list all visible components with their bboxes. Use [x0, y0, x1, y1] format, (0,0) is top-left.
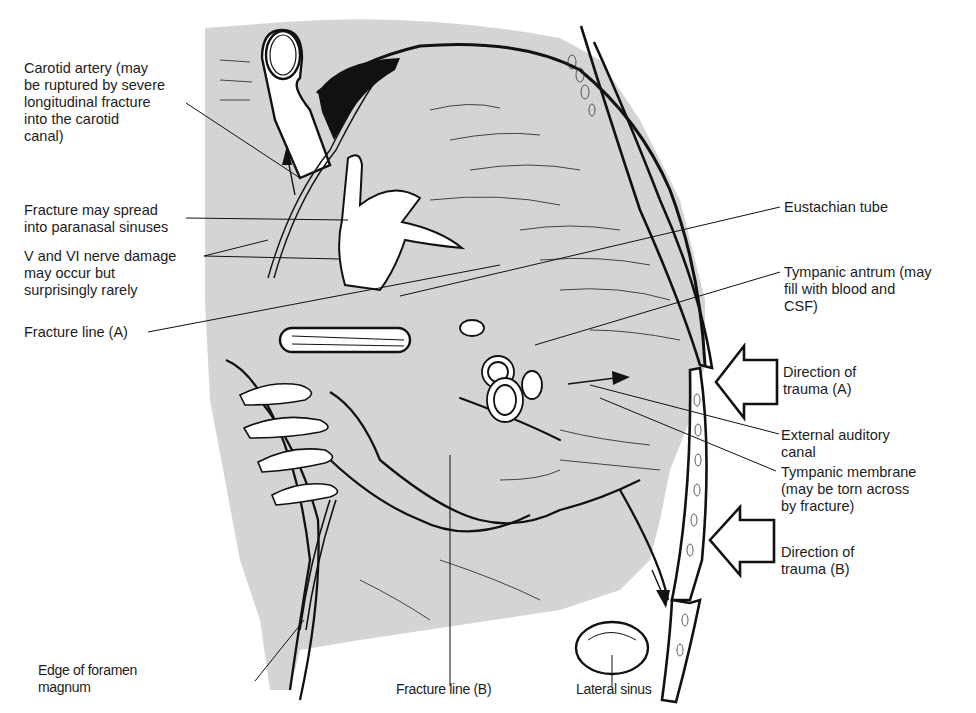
label-nerve-damage: V and VI nerve damage may occur but surp… [24, 248, 176, 299]
label-fracture-line-a: Fracture line (A) [24, 324, 128, 341]
label-direction-trauma-a: Direction of trauma (A) [783, 364, 856, 398]
label-paranasal-sinuses: Fracture may spread into paranasal sinus… [24, 202, 168, 236]
trauma-arrow-a-icon [716, 346, 777, 418]
label-tympanic-membrane: Tympanic membrane (may be torn across by… [781, 464, 916, 515]
carotid-horizontal [280, 328, 410, 352]
label-external-auditory-canal: External auditory canal [781, 427, 890, 461]
label-lateral-sinus: Lateral sinus [576, 681, 651, 698]
trauma-arrow-b-icon [710, 507, 774, 575]
label-fracture-line-b: Fracture line (B) [396, 681, 491, 698]
label-foramen-magnum: Edge of foramen magnum [38, 662, 137, 696]
label-carotid-artery: Carotid artery (may be ruptured by sever… [24, 60, 165, 145]
label-tympanic-antrum: Tympanic antrum (may fill with blood and… [784, 264, 931, 315]
label-direction-trauma-b: Direction of trauma (B) [781, 544, 854, 578]
label-eustachian-tube: Eustachian tube [784, 199, 888, 216]
